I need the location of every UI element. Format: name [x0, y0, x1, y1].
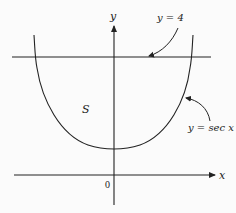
- region-label: S: [82, 103, 90, 116]
- line-label: y = 4: [156, 12, 184, 23]
- origin-label: 0: [105, 179, 110, 190]
- diagram-labels: y x 0 S y = 4 y = sec x: [0, 0, 236, 213]
- y-axis-label: y: [109, 10, 117, 23]
- curve-label: y = sec x: [187, 122, 234, 133]
- x-axis-label: x: [219, 169, 226, 182]
